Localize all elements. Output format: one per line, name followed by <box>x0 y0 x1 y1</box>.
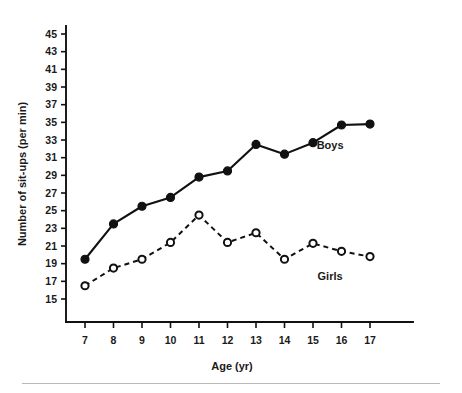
y-tick-label-21: 21 <box>45 240 57 252</box>
data-point-girls-age-17 <box>366 253 373 260</box>
data-point-girls-age-14 <box>281 256 288 263</box>
y-tick-label-41: 41 <box>45 63 57 75</box>
y-tick-label-17: 17 <box>45 275 57 287</box>
x-tick-label-13: 13 <box>250 334 262 346</box>
y-tick-label-45: 45 <box>45 28 57 40</box>
series-annotations: BoysGirls <box>317 139 344 282</box>
x-tick-label-10: 10 <box>165 334 177 346</box>
y-tick-label-15: 15 <box>45 293 57 305</box>
data-point-boys-age-16 <box>338 121 346 129</box>
y-tick-label-25: 25 <box>45 204 57 216</box>
y-axis-title: Number of sit-ups (per min) <box>16 102 28 247</box>
x-tick-label-14: 14 <box>279 334 291 346</box>
y-tick-label-27: 27 <box>45 187 57 199</box>
y-tick-label-35: 35 <box>45 116 57 128</box>
data-point-boys-age-9 <box>138 202 146 210</box>
data-point-boys-age-13 <box>252 140 260 148</box>
data-point-boys-age-12 <box>224 167 232 175</box>
x-tick-label-9: 9 <box>139 334 145 346</box>
y-tick-label-37: 37 <box>45 98 57 110</box>
data-point-girls-age-15 <box>309 240 316 247</box>
y-tick-label-19: 19 <box>45 257 57 269</box>
x-tick-label-15: 15 <box>307 334 319 346</box>
chart-axes <box>66 26 413 322</box>
x-axis-tick-labels: 7891011121314151617 <box>82 334 376 346</box>
data-point-boys-age-10 <box>167 193 175 201</box>
data-point-girls-age-12 <box>224 239 231 246</box>
y-tick-label-39: 39 <box>45 81 57 93</box>
sit-ups-line-chart: 15171921232527293133353739414345 7891011… <box>0 0 462 393</box>
data-point-boys-age-17 <box>366 120 374 128</box>
data-point-girls-age-11 <box>195 211 202 218</box>
data-point-girls-age-7 <box>81 282 88 289</box>
data-point-boys-age-7 <box>81 255 89 263</box>
x-tick-label-17: 17 <box>364 334 376 346</box>
series-label-girls: Girls <box>318 270 343 282</box>
data-point-girls-age-8 <box>110 264 117 271</box>
y-tick-label-43: 43 <box>45 45 57 57</box>
y-tick-label-33: 33 <box>45 134 57 146</box>
data-point-boys-age-14 <box>281 150 289 158</box>
x-tick-label-8: 8 <box>111 334 117 346</box>
y-tick-label-29: 29 <box>45 169 57 181</box>
data-point-girls-age-13 <box>252 229 259 236</box>
y-tick-label-31: 31 <box>45 151 57 163</box>
data-point-girls-age-9 <box>138 256 145 263</box>
data-point-boys-age-11 <box>195 173 203 181</box>
x-tick-label-12: 12 <box>222 334 234 346</box>
y-tick-label-23: 23 <box>45 222 57 234</box>
x-tick-label-11: 11 <box>193 334 204 346</box>
x-axis-title: Age (yr) <box>211 360 253 372</box>
x-tick-label-16: 16 <box>336 334 348 346</box>
data-point-girls-age-16 <box>338 248 345 255</box>
y-axis-tick-labels: 15171921232527293133353739414345 <box>45 28 57 305</box>
x-tick-label-7: 7 <box>82 334 88 346</box>
data-point-girls-age-10 <box>167 239 174 246</box>
data-point-boys-age-8 <box>110 220 118 228</box>
figure-container: 15171921232527293133353739414345 7891011… <box>0 0 462 393</box>
series-label-boys: Boys <box>317 139 344 151</box>
